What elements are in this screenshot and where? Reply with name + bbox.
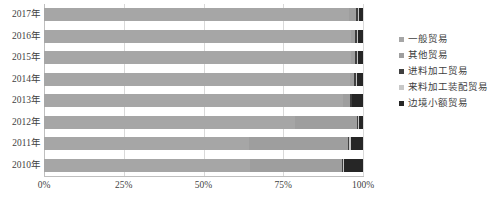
y-axis-tick-label: 2015年 [1, 52, 41, 63]
bar-row [44, 159, 363, 172]
legend-label: 来料加工装配贸易 [408, 81, 488, 93]
bar-segment [250, 159, 342, 172]
bar-row [44, 73, 363, 86]
gridline-100% [363, 4, 364, 176]
bar-segment [349, 8, 356, 21]
bar-segment [343, 94, 350, 107]
y-axis-tick-label: 2013年 [1, 95, 41, 106]
legend-label: 一般贸易 [408, 33, 448, 45]
y-axis-labels: 2017年2016年2015年2014年2013年2012年2011年2010年 [0, 4, 41, 176]
y-axis-tick-label: 2010年 [1, 160, 41, 171]
bar-row [44, 51, 363, 64]
legend-label: 进料加工贸易 [408, 65, 468, 77]
bar-segment [358, 30, 363, 43]
bar-row [44, 137, 363, 150]
y-axis-tick-label: 2016年 [1, 31, 41, 42]
legend-label: 其他贸易 [408, 49, 448, 61]
y-axis-tick-label: 2011年 [1, 138, 41, 149]
legend-swatch-icon [399, 37, 404, 42]
bar-segment [295, 116, 357, 129]
bar-segment [358, 51, 363, 64]
x-axis-tick-label: 100% [352, 179, 374, 192]
x-axis-tick-label: 50% [195, 179, 212, 192]
legend-label: 边境小额贸易 [408, 97, 468, 109]
bar-segment [44, 137, 249, 150]
bar-segment [344, 159, 363, 172]
legend-swatch-icon [399, 53, 404, 58]
y-axis-tick-label: 2014年 [1, 74, 41, 85]
stacked-bar-chart: 2017年2016年2015年2014年2013年2012年2011年2010年… [0, 0, 499, 207]
bar-segment [249, 137, 348, 150]
x-axis-tick-label: 0% [38, 179, 51, 192]
plot-area [44, 4, 363, 176]
bar-segment [44, 116, 295, 129]
bar-segment [351, 137, 363, 150]
bar-segment [44, 51, 351, 64]
x-axis-labels: 0%25%50%75%100% [0, 179, 420, 195]
legend-swatch-icon [399, 101, 404, 106]
bar-segment [44, 73, 350, 86]
legend-item[interactable]: 一般贸易 [399, 31, 499, 47]
bar-segment [44, 8, 349, 21]
category-axis-line [44, 176, 364, 177]
bar-segment [359, 116, 363, 129]
legend-swatch-icon [399, 85, 404, 90]
bar-row [44, 30, 363, 43]
bar-segment [44, 94, 343, 107]
bar-segment [357, 73, 363, 86]
bar-row [44, 94, 363, 107]
y-axis-tick-label: 2017年 [1, 9, 41, 20]
legend-swatch-icon [399, 69, 404, 74]
y-axis-tick-label: 2012年 [1, 117, 41, 128]
bar-row [44, 8, 363, 21]
bar-row [44, 116, 363, 129]
x-axis-tick-label: 75% [275, 179, 292, 192]
legend-item[interactable]: 进料加工贸易 [399, 63, 499, 79]
bar-segment [359, 8, 363, 21]
bar-segment [44, 159, 250, 172]
bar-segment [352, 94, 363, 107]
legend: 一般贸易其他贸易进料加工贸易来料加工装配贸易边境小额贸易 [399, 31, 499, 111]
legend-item[interactable]: 边境小额贸易 [399, 95, 499, 111]
x-axis-tick-label: 25% [115, 179, 132, 192]
bar-segment [44, 30, 351, 43]
legend-item[interactable]: 来料加工装配贸易 [399, 79, 499, 95]
legend-item[interactable]: 其他贸易 [399, 47, 499, 63]
